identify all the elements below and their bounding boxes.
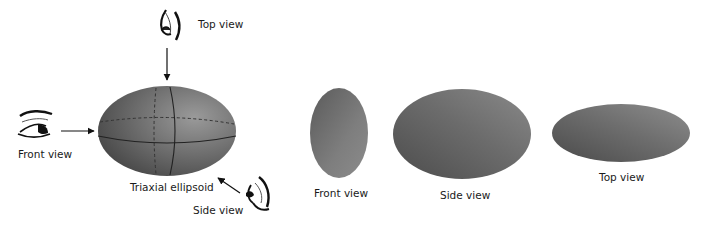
front-projection-label: Front view — [314, 187, 368, 199]
side-projection-label: Side view — [440, 189, 490, 201]
front-eye-icon — [18, 111, 52, 137]
front-view-label: Front view — [18, 148, 72, 160]
triaxial-ellipsoid — [98, 86, 236, 176]
front-view-projection — [310, 88, 368, 178]
top-view-label: Top view — [198, 18, 243, 30]
top-view-projection — [552, 104, 690, 162]
side-view-projection — [393, 89, 531, 179]
ellipsoid-title: Triaxial ellipsoid — [130, 181, 214, 193]
top-projection-label: Top view — [599, 171, 644, 183]
side-view-label: Side view — [193, 204, 243, 216]
top-eye-icon — [161, 10, 179, 40]
side-view-arrow — [218, 178, 240, 193]
side-eye-icon — [246, 177, 269, 210]
